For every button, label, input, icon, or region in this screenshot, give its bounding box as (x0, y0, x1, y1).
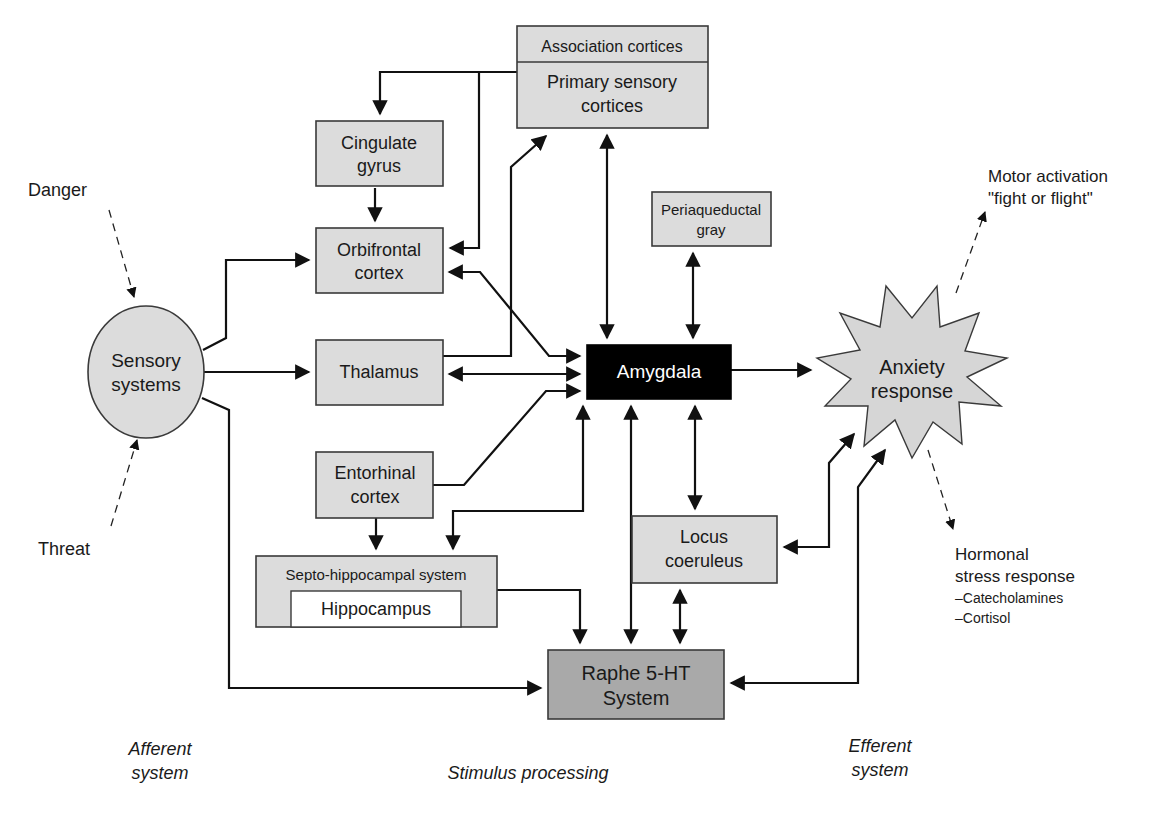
svg-text:gray: gray (696, 221, 726, 238)
association-cortices-label: Association cortices (541, 38, 682, 55)
efferent-system-label: Efferent system (848, 736, 912, 780)
threat-label: Threat (38, 539, 90, 559)
septo-hippocampal-label: Septo-hippocampal system (286, 566, 467, 583)
svg-text:system: system (131, 763, 188, 783)
locus-coeruleus-box: Locus coeruleus (632, 516, 777, 583)
svg-text:Periaqueductal: Periaqueductal (661, 201, 761, 218)
svg-text:systems: systems (111, 374, 181, 395)
anxiety-circuit-diagram: Association cortices Primary sensory cor… (0, 0, 1176, 817)
svg-text:cortex: cortex (350, 487, 399, 507)
svg-text:stress response: stress response (955, 567, 1075, 586)
amygdala-label: Amygdala (617, 361, 702, 382)
svg-text:Hormonal: Hormonal (955, 545, 1029, 564)
afferent-system-label: Afferent system (127, 739, 192, 783)
entorhinal-cortex-box: Entorhinal cortex (316, 452, 433, 518)
amygdala-box: Amygdala (587, 345, 731, 399)
septo-hippocampal-system-box: Septo-hippocampal system Hippocampus (256, 556, 497, 627)
stimulus-processing-label: Stimulus processing (447, 763, 608, 783)
svg-text:Motor activation: Motor activation (988, 167, 1108, 186)
periaqueductal-gray-box: Periaqueductal gray (652, 192, 771, 246)
svg-text:cortex: cortex (354, 263, 403, 283)
svg-text:Anxiety: Anxiety (879, 356, 945, 378)
svg-text:Afferent: Afferent (127, 739, 192, 759)
svg-text:Orbifrontal: Orbifrontal (337, 240, 421, 260)
association-primary-cortices-box: Association cortices Primary sensory cor… (517, 26, 708, 128)
svg-text:system: system (851, 760, 908, 780)
svg-text:coeruleus: coeruleus (665, 551, 743, 571)
svg-text:response: response (871, 380, 953, 402)
svg-text:Efferent: Efferent (848, 736, 912, 756)
primary-sensory-label-2: cortices (581, 96, 643, 116)
svg-text:"fight or flight": "fight or flight" (988, 189, 1093, 208)
svg-text:Raphe 5-HT: Raphe 5-HT (582, 662, 691, 684)
danger-label: Danger (28, 180, 87, 200)
svg-text:Locus: Locus (680, 527, 728, 547)
svg-text:–Catecholamines: –Catecholamines (955, 590, 1063, 606)
svg-text:System: System (603, 687, 670, 709)
hippocampus-label: Hippocampus (321, 599, 431, 619)
svg-text:–Cortisol: –Cortisol (955, 610, 1010, 626)
svg-text:gyrus: gyrus (357, 156, 401, 176)
hormonal-stress-label: Hormonal stress response –Catecholamines… (955, 545, 1075, 626)
svg-text:Cingulate: Cingulate (341, 133, 417, 153)
svg-text:Entorhinal: Entorhinal (334, 463, 415, 483)
thalamus-box: Thalamus (316, 340, 443, 405)
cingulate-gyrus-box: Cingulate gyrus (316, 121, 443, 186)
motor-activation-label: Motor activation "fight or flight" (988, 167, 1108, 208)
primary-sensory-label-1: Primary sensory (547, 72, 677, 92)
sensory-systems-ellipse: Sensory systems (88, 306, 204, 438)
svg-text:Sensory: Sensory (111, 350, 181, 371)
orbifrontal-cortex-box: Orbifrontal cortex (316, 228, 443, 293)
raphe-5ht-system-box: Raphe 5-HT System (548, 650, 724, 719)
svg-text:Thalamus: Thalamus (339, 362, 418, 382)
anxiety-response-starburst: Anxiety response (817, 286, 1007, 458)
